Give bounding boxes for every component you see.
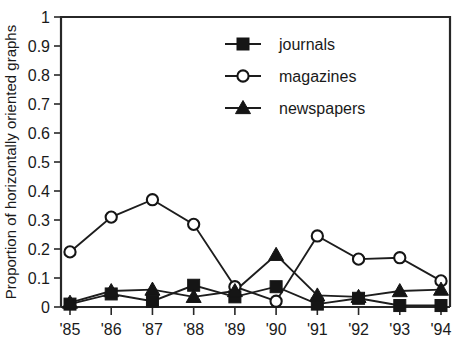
datapoint-magazines-93 bbox=[394, 252, 405, 263]
series-line-newspapers bbox=[70, 255, 441, 303]
legend-item-magazines: magazines bbox=[225, 68, 356, 85]
y-axis-label: Proportion of horizontally oriented grap… bbox=[2, 25, 19, 299]
markers-newspapers bbox=[63, 247, 449, 308]
x-tick-label: '88 bbox=[183, 321, 204, 338]
chart-canvas: Proportion of horizontally oriented grap… bbox=[0, 0, 470, 355]
y-tick-label: 0 bbox=[41, 299, 50, 316]
series-journals bbox=[70, 285, 441, 305]
legend: journalsmagazinesnewspapers bbox=[225, 36, 365, 117]
legend-marker-journals bbox=[237, 38, 249, 50]
y-axis-ticks: 00.10.20.30.40.50.60.70.80.91 bbox=[28, 9, 61, 316]
y-tick-label: 0.9 bbox=[28, 38, 50, 55]
x-axis-ticks: '85'86'87'88'89'90'91'92'93'94 bbox=[60, 307, 452, 338]
series-group bbox=[63, 194, 449, 311]
y-tick-label: 0.5 bbox=[28, 154, 50, 171]
x-tick-label: '94 bbox=[431, 321, 452, 338]
x-tick-label: '93 bbox=[389, 321, 410, 338]
legend-label-magazines: magazines bbox=[279, 68, 356, 85]
chart-figure: Proportion of horizontally oriented grap… bbox=[0, 0, 470, 355]
datapoint-newspapers-87 bbox=[145, 282, 160, 295]
series-line-journals bbox=[70, 285, 441, 305]
series-line-magazines bbox=[70, 200, 441, 302]
datapoint-journals-93 bbox=[394, 300, 406, 312]
legend-item-journals: journals bbox=[225, 36, 335, 53]
plot-frame bbox=[61, 17, 450, 307]
x-tick-label: '89 bbox=[224, 321, 245, 338]
datapoint-magazines-91 bbox=[312, 230, 323, 241]
series-newspapers bbox=[70, 255, 441, 303]
y-tick-label: 0.6 bbox=[28, 125, 50, 142]
x-tick-label: '91 bbox=[307, 321, 328, 338]
x-tick-label: '87 bbox=[142, 321, 163, 338]
datapoint-journals-87 bbox=[146, 295, 158, 307]
x-tick-label: '85 bbox=[60, 321, 81, 338]
datapoint-magazines-87 bbox=[147, 194, 158, 205]
datapoint-magazines-86 bbox=[106, 212, 117, 223]
datapoint-magazines-85 bbox=[64, 246, 75, 257]
datapoint-newspapers-90 bbox=[269, 247, 284, 260]
x-tick-label: '90 bbox=[266, 321, 287, 338]
y-tick-label: 0.4 bbox=[28, 183, 50, 200]
datapoint-magazines-90 bbox=[271, 296, 282, 307]
y-tick-label: 0.7 bbox=[28, 96, 50, 113]
y-tick-label: 0.3 bbox=[28, 212, 50, 229]
legend-label-journals: journals bbox=[278, 36, 335, 53]
legend-marker-magazines bbox=[237, 70, 248, 81]
legend-item-newspapers: newspapers bbox=[225, 100, 365, 117]
y-tick-label: 0.8 bbox=[28, 67, 50, 84]
legend-label-newspapers: newspapers bbox=[279, 100, 365, 117]
datapoint-magazines-88 bbox=[188, 219, 199, 230]
datapoint-magazines-92 bbox=[353, 254, 364, 265]
x-tick-label: '92 bbox=[348, 321, 369, 338]
x-tick-label: '86 bbox=[101, 321, 122, 338]
series-magazines bbox=[70, 200, 441, 302]
y-tick-label: 1 bbox=[41, 9, 50, 26]
datapoint-journals-90 bbox=[270, 281, 282, 293]
datapoint-journals-94 bbox=[435, 300, 447, 312]
y-tick-label: 0.1 bbox=[28, 270, 50, 287]
y-tick-label: 0.2 bbox=[28, 241, 50, 258]
